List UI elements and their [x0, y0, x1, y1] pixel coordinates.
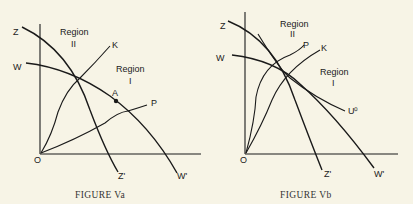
figure-va: Z W O Z' W' K P A Region II Region I FIG… [13, 24, 201, 200]
region1-num: I [129, 76, 132, 86]
region1-word: Region [116, 64, 145, 74]
region1-num: I [332, 78, 335, 88]
figure-vb: Z W O Z' W' K P U⁰ Region II Region I FI… [216, 12, 398, 200]
label-a: A [112, 88, 118, 98]
label-p: P [151, 98, 157, 108]
region2-num: II [71, 39, 76, 49]
label-z: Z [220, 21, 226, 31]
label-k: K [112, 40, 118, 50]
figure-canvas: Z W O Z' W' K P A Region II Region I FIG… [0, 0, 413, 204]
region2-word: Region [60, 27, 89, 37]
p-curve [41, 105, 147, 153]
caption-va: FIGURE Va [75, 190, 126, 200]
label-u0: U⁰ [348, 106, 359, 116]
region2-word: Region [280, 19, 309, 29]
k-curve [41, 46, 110, 153]
label-w: W [13, 62, 22, 72]
label-z: Z [13, 27, 19, 37]
label-p: P [303, 40, 309, 50]
ww-curve [26, 63, 177, 173]
label-w-prime: W' [374, 169, 384, 179]
caption-vb: FIGURE Vb [280, 190, 332, 200]
label-z-prime: Z' [118, 171, 125, 181]
label-z-prime: Z' [324, 169, 331, 179]
label-w-prime: W' [177, 171, 187, 181]
label-k: K [321, 43, 327, 53]
point-a [114, 99, 118, 103]
label-w: W [216, 53, 225, 63]
label-o: O [240, 155, 247, 165]
region2-num: II [290, 29, 295, 39]
label-o: O [34, 155, 41, 165]
region1-word: Region [320, 67, 349, 77]
zz-curve [22, 27, 118, 172]
